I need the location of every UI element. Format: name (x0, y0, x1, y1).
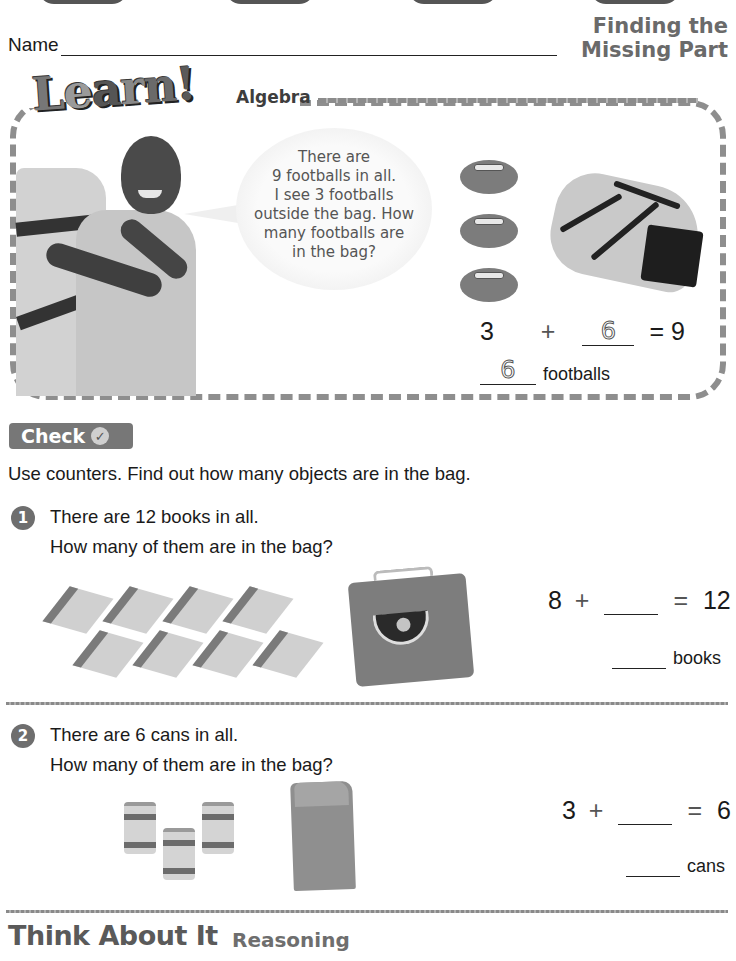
decorative-tab (590, 0, 680, 4)
top-decorative-tabs (0, 0, 736, 6)
logo-letter: a (90, 62, 123, 118)
equation-total: 12 (703, 586, 731, 614)
paper-bag-image (290, 781, 356, 891)
book-icon (132, 630, 203, 678)
book-icon (102, 586, 173, 634)
instructions: Use counters. Find out how many objects … (8, 463, 471, 485)
equation-equals: = (687, 796, 702, 824)
question-line: There are 12 books in all. (50, 502, 333, 532)
lesson-title: Finding the Missing Part (581, 14, 728, 62)
answer-unit: books (673, 648, 721, 668)
briefcase-image (348, 573, 475, 687)
football-icon (460, 268, 518, 302)
section-divider (6, 910, 728, 913)
speech-line: in the bag? (236, 243, 432, 262)
question-line: There are 6 cans in all. (50, 720, 333, 750)
speech-line: many footballs are (236, 224, 432, 243)
learn-equation: 3 + 6 = 9 (480, 316, 685, 346)
learn-logo: Learn! (30, 56, 197, 121)
speech-text: There are 9 footballs in all. I see 3 fo… (236, 148, 432, 262)
equation-plus: + (541, 317, 556, 345)
equation-plus: + (589, 796, 604, 824)
equation-addend: 3 (562, 796, 576, 824)
speech-line: 9 footballs in all. (236, 167, 432, 186)
book-icon (162, 586, 233, 634)
traced-answer: 6 (500, 356, 515, 384)
can-icon (163, 828, 195, 880)
speech-line: I see 3 footballs (236, 186, 432, 205)
can-icon (202, 802, 234, 854)
name-field[interactable] (61, 38, 557, 56)
question-line: How many of them are in the bag? (50, 532, 333, 562)
question-2-text: There are 6 cans in all. How many of the… (50, 720, 333, 780)
think-about-it-subtitle: Reasoning (232, 928, 350, 952)
football-icon (460, 160, 518, 194)
decorative-tab (408, 0, 498, 4)
algebra-rule (318, 98, 698, 103)
think-about-it-title: Think About It (8, 920, 218, 951)
answer-blank[interactable] (626, 859, 680, 877)
book-icon (222, 586, 293, 634)
strand-label: Algebra (236, 87, 311, 107)
check-badge: Check ✓ (9, 423, 133, 449)
equation-answer-blank[interactable] (604, 591, 658, 615)
lesson-title-line2: Missing Part (581, 38, 728, 62)
equation-addend: 3 (480, 317, 494, 345)
decorative-tab (38, 0, 128, 4)
answer-unit: footballs (543, 364, 610, 384)
lesson-title-line1: Finding the (581, 14, 728, 38)
duffel-end (640, 224, 703, 287)
equation-total: 6 (717, 796, 731, 824)
question-number-1: 1 (11, 506, 35, 530)
book-icon (42, 586, 113, 634)
answer-blank[interactable] (612, 651, 666, 669)
traced-answer: 6 (601, 317, 616, 345)
equation-answer-blank[interactable]: 6 (582, 316, 634, 346)
question-1-answer-row: books (612, 648, 721, 669)
section-divider (6, 702, 728, 705)
speech-bubble-tail (184, 204, 244, 224)
check-label: Check (21, 425, 85, 447)
checkmark-icon: ✓ (91, 427, 109, 445)
football-icon (460, 214, 518, 248)
logo-letter: L (30, 66, 65, 122)
question-number-2: 2 (11, 724, 35, 748)
question-1-equation: 8 + = 12 (548, 586, 731, 615)
boy-head (121, 136, 181, 214)
question-2-answer-row: cans (626, 856, 725, 877)
speech-line: outside the bag. How (236, 205, 432, 224)
speech-line: There are (236, 148, 432, 167)
briefcase-handle (373, 566, 434, 581)
equation-answer-blank[interactable] (618, 801, 672, 825)
name-label: Name (8, 34, 59, 56)
decorative-tab (225, 0, 315, 4)
question-2-equation: 3 + = 6 (562, 796, 731, 825)
logo-letter: e (62, 64, 94, 120)
question-1-text: There are 12 books in all. How many of t… (50, 502, 333, 562)
duffel-bag-image (552, 170, 700, 290)
equation-total: = 9 (649, 317, 684, 345)
logo-letter: n (142, 58, 178, 114)
briefcase-emblem (373, 610, 432, 647)
question-line: How many of them are in the bag? (50, 750, 333, 780)
equation-equals: = (673, 586, 688, 614)
equation-addend: 8 (548, 586, 562, 614)
book-icon (252, 630, 323, 678)
book-icon (72, 630, 143, 678)
answer-unit: cans (687, 856, 725, 876)
learn-answer-row: 6 footballs (480, 356, 610, 385)
equation-plus: + (575, 586, 590, 614)
book-icon (192, 630, 263, 678)
can-icon (124, 802, 156, 854)
logo-letter: ! (174, 56, 197, 111)
boy-with-bag-photo (16, 128, 196, 396)
answer-blank[interactable]: 6 (480, 356, 536, 385)
name-row: Name (8, 34, 557, 56)
